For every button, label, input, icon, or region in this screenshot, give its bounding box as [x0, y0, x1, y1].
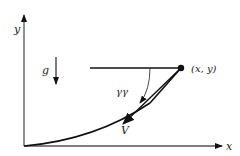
trajectory-curve — [24, 103, 150, 146]
point-label: (x, y) — [191, 63, 217, 74]
x-axis-label: x — [226, 140, 233, 153]
velocity-vector-icon — [123, 68, 181, 124]
gravity-label: g — [42, 64, 49, 77]
diagram-svg: y x g (x, y) γγ V — [0, 0, 240, 156]
velocity-label: V — [121, 124, 130, 137]
point-marker — [178, 65, 184, 71]
angle-arc-icon — [140, 68, 150, 103]
trajectory-diagram: y x g (x, y) γγ V — [0, 0, 240, 156]
angle-label: γγ — [116, 86, 128, 97]
y-axis-label: y — [13, 23, 21, 36]
